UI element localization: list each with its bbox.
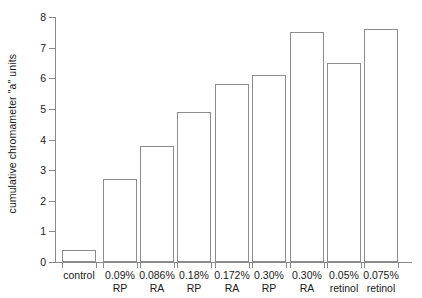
bar [62,250,96,262]
x-axis-tick [252,263,253,268]
x-axis-tick [361,263,362,268]
bar [252,75,286,262]
x-axis-tick [286,263,287,268]
y-axis-title-text: cumulative chromameter "a" units [6,54,18,213]
x-axis-tick [174,263,175,268]
y-axis-tick-label: 8 [26,12,46,22]
bar [364,29,398,262]
x-axis-tick [103,263,104,268]
x-axis-tick [364,263,365,268]
x-axis-tick [249,263,250,268]
x-axis-tick [324,263,325,268]
x-axis-tick [96,263,97,268]
x-axis-tick [398,263,399,268]
y-axis-tick-label: 2 [26,196,46,206]
x-axis-tick [327,263,328,268]
bar [215,84,249,262]
bar [140,146,174,262]
plot-area [55,17,407,262]
y-axis-tick [49,262,55,263]
x-axis-tick [177,263,178,268]
x-axis-tick [215,263,216,268]
bar [177,112,211,262]
y-axis-tick-label: 1 [26,226,46,236]
bar [103,179,137,262]
bar-chart: cumulative chromameter "a" units 0123456… [0,0,422,298]
bar [290,32,324,262]
x-axis-tick [137,263,138,268]
x-axis-tick [211,263,212,268]
y-axis-tick-label: 0 [26,257,46,267]
y-axis-tick-label: 5 [26,104,46,114]
y-axis-tick-label: 7 [26,43,46,53]
y-axis-title: cumulative chromameter "a" units [0,0,24,268]
x-axis-tick [62,263,63,268]
x-axis-category-label: 0.075% retinol [355,269,407,294]
y-axis-tick-label: 4 [26,135,46,145]
y-axis-tick-label: 3 [26,165,46,175]
x-axis-tick [290,263,291,268]
y-axis-tick-label: 6 [26,73,46,83]
x-axis-line [55,262,412,263]
bar [327,63,361,262]
x-axis-tick [140,263,141,268]
